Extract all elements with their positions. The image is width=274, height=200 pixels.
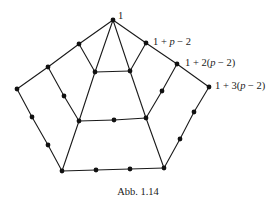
graph-edge	[62, 121, 79, 171]
vertex-label: 1	[118, 10, 123, 21]
graph-vertex-itr	[128, 69, 133, 74]
graph-vertex-bm1	[94, 168, 99, 173]
graph-vertex-ls2	[46, 65, 51, 70]
graph-edge	[130, 168, 164, 169]
graph-edge	[146, 118, 164, 168]
graph-edge	[79, 44, 95, 72]
graph-vertex-itl	[93, 70, 98, 75]
graph-vertex-bl	[60, 169, 65, 174]
graph-vertex-ibr	[144, 116, 149, 121]
graph-edge	[62, 170, 96, 171]
graph-edge	[79, 120, 114, 121]
graph-vertex-ro2	[178, 137, 183, 142]
pentagon-graph-diagram: 11 + p − 21 + 2(p − 2)1 + 3(p − 2) Abb. …	[0, 0, 274, 200]
graph-vertex-rs1	[144, 41, 149, 46]
graph-edge	[48, 44, 79, 67]
graph-vertex-ls1	[77, 42, 82, 47]
graph-edge	[146, 91, 162, 118]
graph-vertex-lo2	[46, 143, 51, 148]
vertex-label: 1 + 2(p − 2)	[185, 57, 236, 69]
graph-vertex-bm2	[128, 167, 133, 172]
graph-edge	[194, 87, 209, 112]
graph-vertex-br	[162, 166, 167, 171]
graph-edge	[130, 71, 146, 118]
graph-edge	[113, 20, 130, 71]
graph-vertex-rs3	[207, 85, 212, 90]
graph-edge	[96, 169, 130, 170]
graph-vertex-ro1	[192, 110, 197, 115]
graph-edge	[79, 72, 95, 121]
graph-edge	[32, 117, 48, 145]
graph-vertex-ls3	[15, 87, 20, 92]
graph-edge	[162, 64, 177, 91]
graph-edge	[95, 71, 130, 72]
graph-edge	[95, 20, 113, 72]
graph-vertex-rdot	[160, 89, 165, 94]
graph-edge	[48, 67, 64, 96]
vertex-labels: 11 + p − 21 + 2(p − 2)1 + 3(p − 2)	[118, 10, 266, 92]
graph-vertex-top	[111, 18, 116, 23]
graph-edge	[164, 139, 180, 168]
graph-vertex-rs2	[175, 62, 180, 67]
graph-edge	[64, 96, 79, 121]
vertex-label: 1 + 3(p − 2)	[215, 80, 266, 92]
graph-edge	[180, 112, 194, 139]
graph-vertex-imid	[112, 118, 117, 123]
graph-edge	[79, 20, 113, 44]
graph-vertex-ibl	[77, 119, 82, 124]
graph-edge	[113, 20, 146, 43]
figure-caption: Abb. 1.14	[117, 186, 159, 197]
vertex-label: 1 + p − 2	[153, 36, 191, 47]
graph-edge	[48, 145, 62, 171]
graph-vertex-ldot	[62, 94, 67, 99]
graph-edge	[17, 89, 32, 117]
graph-edge	[114, 118, 146, 120]
graph-vertex-lo1	[30, 115, 35, 120]
graph-edge	[17, 67, 48, 89]
graph-edge	[130, 43, 146, 71]
